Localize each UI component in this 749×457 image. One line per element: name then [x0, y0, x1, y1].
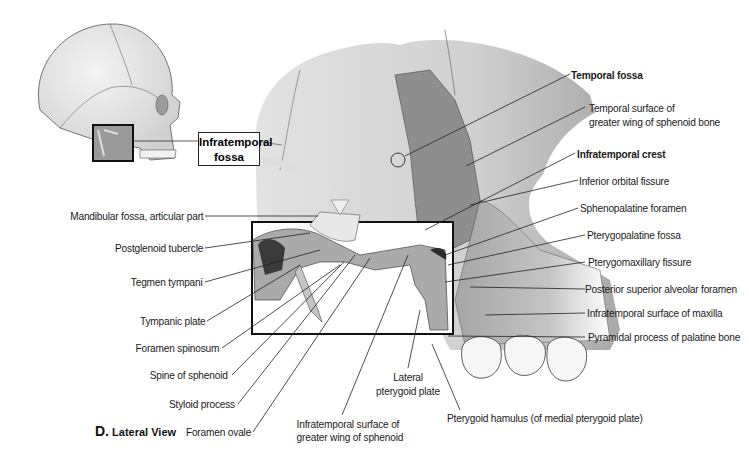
label-temporal-surface-line2: greater wing of sphenoid bone [589, 115, 720, 129]
label-foramen-spinosum: Foramen spinosum [135, 341, 219, 355]
label-inferior-orbital-fissure: Inferior orbital fissure [579, 174, 669, 188]
label-temporal-surface-line1: Temporal surface of [589, 101, 675, 115]
label-postglenoid-tubercle: Postglenoid tubercle [115, 241, 203, 255]
label-infratemporal-crest: Infratemporal crest [577, 147, 665, 161]
label-infratemporal-surface-greater-wing-line2: greater wing of sphenoid [297, 430, 394, 444]
label-infratemporal-surface-greater-wing-line1: Infratemporal surface of [297, 417, 394, 431]
label-foramen-ovale: Foramen ovale [186, 425, 251, 439]
label-infratemporal-surface-maxilla: Infratemporal surface of maxilla [587, 306, 723, 320]
lateral-skull-illustration [252, 30, 620, 381]
label-pterygoid-hamulus: Pterygoid hamulus (of medial pterygoid p… [447, 411, 643, 425]
label-spine-of-sphenoid: Spine of sphenoid [150, 368, 228, 382]
label-tympanic-plate: Tympanic plate [140, 314, 206, 328]
label-lateral-pterygoid-plate-line2: pterygoid plate [373, 384, 443, 398]
skull-inset [38, 24, 198, 161]
label-sphenopalatine-foramen: Sphenopalatine foramen [580, 201, 686, 215]
view-title: D. Lateral View [95, 423, 176, 439]
label-styloid-process: Styloid process [169, 397, 235, 411]
label-mandibular-fossa: Mandibular fossa, articular part [70, 209, 203, 223]
view-letter: D. [95, 423, 109, 439]
label-pterygopalatine-fossa: Pterygopalatine fossa [587, 228, 681, 242]
label-pyramidal-process: Pyramidal process of palatine bone [588, 330, 740, 344]
label-lateral-pterygoid-plate-line1: Lateral [382, 370, 435, 384]
infratemporal-fossa-callout: Infratemporal fossa [198, 132, 260, 166]
label-tegmen-tympani: Tegmen tympani [131, 275, 203, 289]
label-posterior-superior-alveolar-foramen: Posterior superior alveolar foramen [585, 282, 737, 296]
label-pterygomaxillary-fissure: Pterygomaxillary fissure [588, 255, 691, 269]
label-temporal-fossa: Temporal fossa [571, 68, 643, 82]
view-name: Lateral View [112, 426, 176, 438]
